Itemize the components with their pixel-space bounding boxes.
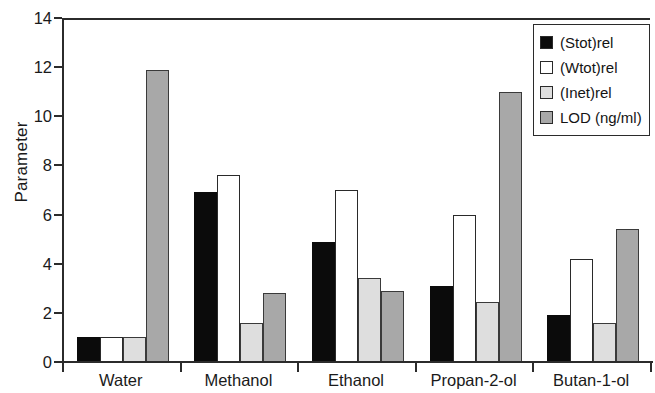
bar (77, 337, 100, 362)
y-tick-mark (54, 115, 62, 117)
legend-swatch-icon (540, 111, 553, 124)
y-tick-label: 10 (12, 107, 52, 126)
y-tick-label: 8 (12, 156, 52, 175)
x-tick-mark (62, 363, 64, 372)
y-tick-mark (54, 17, 62, 19)
x-tick-mark (180, 363, 182, 372)
y-tick-mark (54, 312, 62, 314)
y-tick-mark (54, 214, 62, 216)
bar (453, 215, 476, 362)
chart-legend: (Stot)rel(Wtot)rel(Inet)relLOD (ng/ml) (533, 24, 650, 136)
x-axis-line (56, 361, 653, 363)
legend-swatch-icon (540, 86, 553, 99)
bar (593, 323, 616, 362)
x-category-label: Water (99, 371, 142, 390)
y-tick-label: 0 (12, 353, 52, 372)
x-tick-mark (297, 363, 299, 372)
bar (381, 291, 404, 362)
y-tick-mark (54, 263, 62, 265)
x-category-label: Ethanol (328, 371, 384, 390)
x-category-label: Butan-1-ol (553, 371, 629, 390)
legend-label: (Stot)rel (560, 34, 613, 51)
bar (217, 175, 240, 362)
legend-label: (Wtot)rel (560, 59, 618, 76)
bar (547, 315, 570, 362)
bar (358, 278, 381, 362)
bar (263, 293, 286, 362)
legend-label: (Inet)rel (560, 84, 612, 101)
legend-swatch-icon (540, 36, 553, 49)
y-tick-mark (54, 164, 62, 166)
x-category-label: Propan-2-ol (430, 371, 516, 390)
x-tick-mark (650, 363, 652, 372)
x-tick-mark (532, 363, 534, 372)
bar (100, 337, 123, 362)
bar (335, 190, 358, 362)
y-tick-label: 2 (12, 304, 52, 323)
legend-item: (Stot)rel (540, 30, 644, 55)
y-tick-label: 6 (12, 206, 52, 225)
legend-item: LOD (ng/ml) (540, 105, 644, 130)
bar (430, 286, 453, 362)
y-tick-mark (54, 66, 62, 68)
y-tick-label: 12 (12, 58, 52, 77)
bar (616, 229, 639, 362)
bar (194, 192, 217, 362)
bar (570, 259, 593, 362)
bar (476, 302, 499, 362)
bar-chart-figure: Parameter 02468101214 WaterMethanolEthan… (0, 0, 655, 393)
bar (499, 92, 522, 362)
legend-item: (Wtot)rel (540, 55, 644, 80)
legend-item: (Inet)rel (540, 80, 644, 105)
x-tick-mark (415, 363, 417, 372)
y-tick-label: 4 (12, 255, 52, 274)
legend-swatch-icon (540, 61, 553, 74)
bar (123, 337, 146, 362)
legend-label: LOD (ng/ml) (560, 109, 642, 126)
bar (240, 323, 263, 362)
y-tick-label: 14 (12, 9, 52, 28)
bar (146, 70, 169, 362)
bar (312, 242, 335, 362)
x-category-label: Methanol (204, 371, 272, 390)
